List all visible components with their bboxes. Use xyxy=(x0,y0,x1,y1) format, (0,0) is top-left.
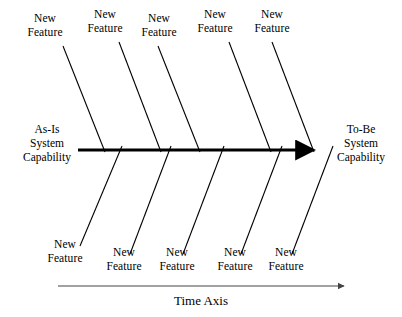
feature-label-top-4: New Feature xyxy=(192,8,238,35)
feature-label-bottom-4: New Feature xyxy=(212,246,258,273)
feature-label-top-1: New Feature xyxy=(22,12,68,39)
bone-bottom-1 xyxy=(80,146,122,246)
bone-bottom-4 xyxy=(241,146,282,254)
to-be-capability-label: To-Be System Capability xyxy=(325,122,397,164)
feature-label-top-5: New Feature xyxy=(249,8,295,35)
lower-bones-group xyxy=(80,146,333,254)
bone-top-3 xyxy=(158,46,200,152)
upper-bones-group xyxy=(63,42,314,152)
fishbone-diagram-canvas: New Feature New Feature New Feature New … xyxy=(0,0,402,317)
feature-label-top-2: New Feature xyxy=(82,8,128,35)
bone-top-2 xyxy=(119,42,161,152)
bone-bottom-2 xyxy=(130,146,171,254)
feature-label-bottom-3: New Feature xyxy=(154,246,200,273)
bone-top-5 xyxy=(272,42,314,152)
feature-label-top-3: New Feature xyxy=(136,12,182,39)
time-axis-label: Time Axis xyxy=(0,293,402,309)
feature-label-bottom-2: New Feature xyxy=(101,246,147,273)
feature-label-bottom-1: New Feature xyxy=(42,238,88,265)
feature-label-bottom-5: New Feature xyxy=(263,246,309,273)
bone-top-4 xyxy=(229,42,271,152)
as-is-capability-label: As-Is System Capability xyxy=(12,122,82,164)
bone-bottom-3 xyxy=(183,146,224,254)
